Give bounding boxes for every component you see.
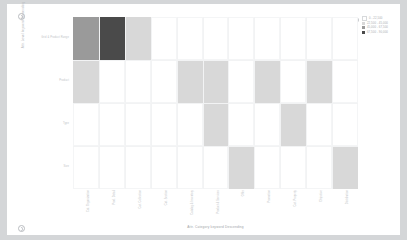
heatmap-cell[interactable] bbox=[177, 60, 203, 103]
x-axis-tick-label: Cat. Section bbox=[165, 190, 168, 220]
heatmap-cell[interactable] bbox=[177, 146, 203, 189]
heatmap-cell[interactable] bbox=[280, 17, 306, 60]
y-axis-tick-label: Product bbox=[23, 80, 69, 83]
legend-item[interactable]: 67,500 - 90,000 bbox=[362, 31, 388, 34]
heatmap-plot bbox=[73, 17, 358, 189]
heatmap-cell[interactable] bbox=[254, 146, 280, 189]
heatmap-cell[interactable] bbox=[99, 146, 125, 189]
x-axis-tick-label: Prod. Detail bbox=[113, 190, 116, 220]
heatmap-cell[interactable] bbox=[332, 60, 358, 103]
heatmap-cell[interactable] bbox=[125, 103, 151, 146]
heatmap-cell[interactable] bbox=[203, 146, 229, 189]
y-axis-tick-label: Grid & Product Range bbox=[23, 37, 69, 40]
legend-swatch bbox=[362, 22, 365, 25]
heatmap-cell[interactable] bbox=[73, 60, 99, 103]
y-axis-tick-label: Size bbox=[23, 166, 69, 169]
heatmap-cell[interactable] bbox=[125, 146, 151, 189]
heatmap-cell[interactable] bbox=[228, 103, 254, 146]
heatmap-cell[interactable] bbox=[99, 60, 125, 103]
heatmap-cell[interactable] bbox=[177, 103, 203, 146]
x-axis-tick-label: Catalog & Inventory bbox=[191, 190, 194, 220]
grid-line bbox=[73, 146, 358, 147]
heatmap-cell[interactable] bbox=[280, 146, 306, 189]
x-axis-tick-label: Distribution bbox=[346, 190, 349, 220]
grid-line bbox=[73, 103, 358, 104]
heatmap-cell[interactable] bbox=[280, 103, 306, 146]
screenshot-root: 0 - 22,50022,500 - 45,00045,000 - 67,500… bbox=[0, 0, 407, 240]
heatmap-cell[interactable] bbox=[332, 17, 358, 60]
x-axis-tick-label: Cat. Organization bbox=[87, 190, 90, 220]
info-icon[interactable] bbox=[18, 225, 25, 232]
heatmap-cell[interactable] bbox=[254, 103, 280, 146]
heatmap-cell[interactable] bbox=[228, 146, 254, 189]
legend-item[interactable]: 45,000 - 67,500 bbox=[362, 26, 388, 29]
heatmap-cell[interactable] bbox=[306, 17, 332, 60]
heatmap-cell[interactable] bbox=[306, 60, 332, 103]
heatmap-cell[interactable] bbox=[151, 103, 177, 146]
heatmap-cell[interactable] bbox=[151, 60, 177, 103]
legend: 0 - 22,50022,500 - 45,00045,000 - 67,500… bbox=[353, 16, 388, 34]
heatmap-cell[interactable] bbox=[332, 146, 358, 189]
x-axis-tick-label: Offer bbox=[242, 190, 245, 220]
legend-swatch bbox=[362, 26, 365, 29]
heatmap-cell[interactable] bbox=[203, 103, 229, 146]
heatmap-cell[interactable] bbox=[254, 60, 280, 103]
x-axis-tick-label: Cat. Collection bbox=[139, 190, 142, 220]
heatmap-cell[interactable] bbox=[125, 17, 151, 60]
x-axis-tick-label: Product & Services bbox=[217, 190, 220, 220]
legend-label: 45,000 - 67,500 bbox=[367, 26, 388, 29]
heatmap-cell[interactable] bbox=[280, 60, 306, 103]
x-axis-title: Attr. Category keyword Descending bbox=[73, 225, 358, 229]
y-axis-labels: Grid & Product RangeProductTypeSize bbox=[25, 17, 71, 189]
x-axis-tick-label: Cat. Property bbox=[294, 190, 297, 220]
heatmap-cell[interactable] bbox=[306, 103, 332, 146]
x-axis-tick-label: Objective bbox=[320, 190, 323, 220]
x-axis-labels: Cat. OrganizationProd. DetailCat. Collec… bbox=[73, 190, 358, 222]
heatmap-cell[interactable] bbox=[203, 17, 229, 60]
legend-items: 0 - 22,50022,500 - 45,00045,000 - 67,500… bbox=[362, 16, 388, 34]
heatmap-cell[interactable] bbox=[99, 17, 125, 60]
heatmap-cell[interactable] bbox=[203, 60, 229, 103]
legend-item[interactable]: 0 - 22,500 bbox=[362, 16, 388, 21]
heatmap-cell[interactable] bbox=[228, 17, 254, 60]
grid-line bbox=[73, 60, 358, 61]
heatmap-cell[interactable] bbox=[73, 103, 99, 146]
x-axis-tick-label: Promotion bbox=[268, 190, 271, 220]
heatmap-cell[interactable] bbox=[151, 146, 177, 189]
legend-label: 0 - 22,500 bbox=[369, 17, 383, 20]
legend-label: 67,500 - 90,000 bbox=[367, 31, 388, 34]
heatmap-cell[interactable] bbox=[306, 146, 332, 189]
heatmap-cell[interactable] bbox=[228, 60, 254, 103]
y-axis-tick-label: Type bbox=[23, 123, 69, 126]
heatmap-cell[interactable] bbox=[177, 17, 203, 60]
heatmap-cell[interactable] bbox=[332, 103, 358, 146]
heatmap-cell[interactable] bbox=[151, 17, 177, 60]
legend-swatch bbox=[362, 31, 365, 34]
heatmap-cell[interactable] bbox=[73, 17, 99, 60]
heatmap-cell[interactable] bbox=[99, 103, 125, 146]
heatmap-cell[interactable] bbox=[125, 60, 151, 103]
chart-canvas: 0 - 22,50022,500 - 45,00045,000 - 67,500… bbox=[7, 4, 400, 235]
heatmap-cell[interactable] bbox=[73, 146, 99, 189]
legend-swatch bbox=[362, 16, 367, 21]
heatmap-cell[interactable] bbox=[254, 17, 280, 60]
